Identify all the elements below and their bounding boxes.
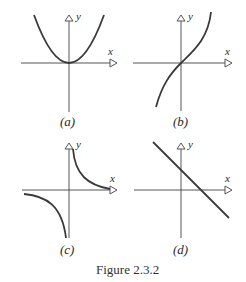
figure-caption: Figure 2.3.2	[96, 262, 159, 278]
panel-b-label: (b)	[173, 114, 188, 130]
panel-d-y-arrow-icon	[177, 143, 185, 149]
panel-a-x-arrow-icon	[110, 59, 117, 67]
panel-d-graph	[134, 142, 232, 238]
panel-d-x-label: x	[225, 172, 230, 184]
panel-b-y-label: y	[188, 10, 193, 22]
panel-c-hyperbola-branch-q3	[24, 194, 66, 238]
panel-c-graph	[22, 143, 117, 238]
panel-a-y-arrow-icon	[65, 15, 73, 21]
panel-b-y-arrow-icon	[177, 15, 185, 21]
panel-a-y-label: y	[76, 10, 81, 22]
panel-b-cubic-curve	[156, 12, 211, 107]
panel-b-x-arrow-icon	[225, 59, 232, 67]
figure-canvas	[0, 0, 246, 282]
panel-c-x-arrow-icon	[110, 186, 117, 194]
panel-c-y-arrow-icon	[65, 143, 73, 149]
panel-a-x-label: x	[108, 45, 113, 57]
panel-a-label: (a)	[60, 114, 75, 130]
panel-d-linear-line	[153, 142, 229, 218]
panel-c-label: (c)	[60, 242, 74, 258]
panel-d-x-arrow-icon	[225, 186, 232, 194]
panel-a-graph	[21, 15, 117, 112]
panel-c-x-label: x	[110, 172, 115, 184]
panel-b-x-label: x	[225, 45, 230, 57]
panel-d-label: (d)	[173, 242, 188, 258]
panel-c-y-label: y	[76, 138, 81, 150]
panel-c-hyperbola-branch-q1	[73, 149, 110, 189]
panel-d-y-label: y	[188, 138, 193, 150]
panel-b-graph	[133, 12, 232, 111]
